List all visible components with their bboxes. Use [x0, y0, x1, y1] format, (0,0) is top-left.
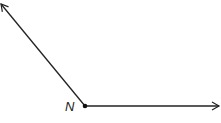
vertex-point [83, 104, 88, 109]
angle-diagram [0, 0, 221, 123]
vertex-label: N [65, 99, 74, 114]
ray-upper-left [1, 4, 85, 106]
